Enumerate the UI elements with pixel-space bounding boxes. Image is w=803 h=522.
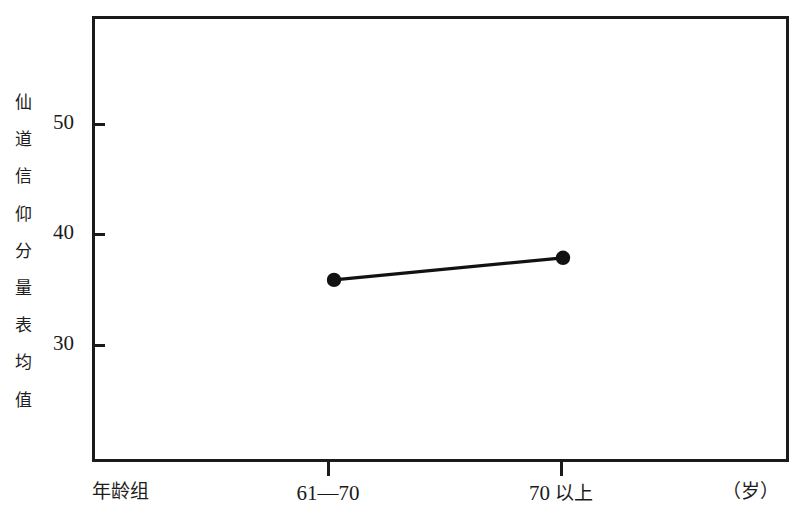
y-tick-mark <box>92 344 105 347</box>
x-tick-label-text: 70 <box>529 481 550 505</box>
y-tick-label: 30 <box>53 331 74 356</box>
x-tick-label: 70 以上 <box>529 480 593 506</box>
y-tick-mark <box>92 123 105 126</box>
x-tick-mark <box>560 462 563 476</box>
x-tick-label-text: 61—70 <box>297 481 360 505</box>
x-axis-title: 年龄组 <box>92 478 149 504</box>
y-axis-title: 仙 道 信 仰 分 量 表 均 值 <box>10 84 36 419</box>
x-tick-label-suffix: 以上 <box>555 482 593 504</box>
plot-area-frame <box>92 16 789 462</box>
x-tick-label: 61—70 <box>297 480 360 506</box>
y-tick-label: 40 <box>53 220 74 245</box>
y-tick-mark <box>92 233 105 236</box>
line-chart-figure: 仙 道 信 仰 分 量 表 均 值 50 40 30 61—70 70 以上 年… <box>0 0 803 522</box>
y-tick-label: 50 <box>53 110 74 135</box>
x-axis-unit-label: （岁） <box>722 478 779 504</box>
x-tick-mark <box>327 462 330 476</box>
